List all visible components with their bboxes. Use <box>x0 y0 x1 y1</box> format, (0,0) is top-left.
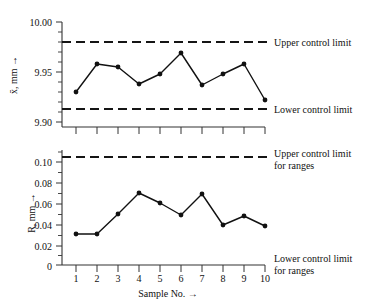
range-point-9 <box>242 214 247 219</box>
sample-axis-title: Sample No. → <box>138 288 198 299</box>
range-xtick-label-7: 7 <box>200 273 205 284</box>
range-point-3 <box>116 212 121 217</box>
xbar-x-ticks <box>76 127 265 134</box>
range-ytick-label-0-02: 0.02 <box>35 241 53 252</box>
xbar-point-9 <box>242 62 247 67</box>
range-point-10 <box>263 224 268 229</box>
xbar-ytick-label-10-00: 10.00 <box>30 17 53 28</box>
range-xtick-label-10: 10 <box>260 273 270 284</box>
range-point-5 <box>158 201 163 206</box>
xbar-point-1 <box>74 90 79 95</box>
range-y-major-ticks <box>56 162 62 265</box>
range-point-7 <box>200 192 205 197</box>
xbar-point-4 <box>137 82 142 87</box>
xbar-y-axis-title: x̄, mm → <box>8 56 19 94</box>
range-xtick-label-8: 8 <box>221 273 226 284</box>
range-xtick-label-3: 3 <box>116 273 121 284</box>
range-upper-control-limit-label-line1: Upper control limit <box>274 148 351 159</box>
xbar-series-line <box>76 53 265 100</box>
xbar-y-major-ticks <box>56 22 62 122</box>
range-upper-control-limit-label-line2: for ranges <box>274 160 314 171</box>
range-lower-control-limit-label-line1: Lower control limit <box>274 253 353 264</box>
xbar-point-8 <box>221 72 226 77</box>
xbar-point-5 <box>158 72 163 77</box>
range-point-4 <box>137 191 142 196</box>
xbar-point-7 <box>200 83 205 88</box>
range-ytick-label-0: 0 <box>47 261 52 272</box>
range-xtick-label-6: 6 <box>179 273 184 284</box>
range-ytick-label-0-06: 0.06 <box>35 199 53 210</box>
range-xtick-label-5: 5 <box>158 273 163 284</box>
range-xtick-label-1: 1 <box>74 273 79 284</box>
range-xtick-label-9: 9 <box>242 273 247 284</box>
xbar-chart: 10.00 9.95 9.90 <box>8 17 353 135</box>
xbar-point-2 <box>95 62 100 67</box>
xbar-ytick-label-9-95: 9.95 <box>35 67 53 78</box>
range-x-ticks <box>76 265 265 272</box>
range-ytick-label-0-04: 0.04 <box>35 220 53 231</box>
control-chart-figure: 10.00 9.95 9.90 <box>0 0 372 305</box>
xbar-upper-control-limit-label: Upper control limit <box>274 37 351 48</box>
range-series-line <box>76 193 265 234</box>
range-ytick-label-0-08: 0.08 <box>35 178 53 189</box>
xbar-ytick-label-9-90: 9.90 <box>35 117 53 128</box>
xbar-point-6 <box>179 51 184 56</box>
range-ytick-label-0-10: 0.10 <box>35 157 53 168</box>
range-y-axis-title: R, mm → <box>26 193 37 233</box>
range-point-6 <box>179 213 184 218</box>
range-lower-control-limit-label-line2: for ranges <box>274 265 314 276</box>
range-point-8 <box>221 223 226 228</box>
range-point-1 <box>74 232 79 237</box>
xbar-lower-control-limit-label: Lower control limit <box>274 104 353 115</box>
control-charts-svg: 10.00 9.95 9.90 <box>0 0 372 305</box>
range-chart: 0.10 0.08 0.06 0.04 0.02 0 1 2 3 <box>26 148 353 299</box>
xbar-point-10 <box>263 98 268 103</box>
xbar-series-points <box>74 51 268 103</box>
range-point-2 <box>95 232 100 237</box>
range-xtick-label-2: 2 <box>95 273 100 284</box>
range-xtick-label-4: 4 <box>137 273 142 284</box>
xbar-point-3 <box>116 65 121 70</box>
